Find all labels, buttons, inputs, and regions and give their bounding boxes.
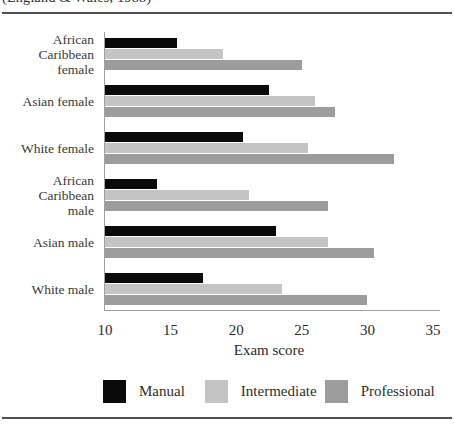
bar-intermediate xyxy=(105,237,328,247)
figure-caption-clipped: (England & Wales, 1988) xyxy=(2,0,454,8)
x-axis-ticks: 101520253035 xyxy=(105,322,433,338)
legend-label-intermediate: Intermediate xyxy=(241,383,317,400)
intermediate-swatch xyxy=(205,380,228,403)
figure-caption-text: (England & Wales, 1988) xyxy=(2,0,454,6)
x-tick-35: 35 xyxy=(426,322,441,339)
chart-group-african-caribbean-female: AfricanCaribbeanfemale xyxy=(0,38,454,70)
group-bars xyxy=(105,38,433,70)
x-tick-25: 25 xyxy=(294,322,309,339)
x-tick-20: 20 xyxy=(229,322,244,339)
bar-manual xyxy=(105,38,177,48)
category-label: White male xyxy=(0,282,105,297)
bar-intermediate xyxy=(105,143,308,153)
chart-group-asian-female: Asian female xyxy=(0,85,454,117)
bar-intermediate xyxy=(105,96,315,106)
legend: Manual Intermediate Professional xyxy=(103,380,454,403)
bar-professional xyxy=(105,295,367,305)
category-label: Asian female xyxy=(0,94,105,109)
x-axis-title: Exam score xyxy=(105,342,433,359)
x-tick-10: 10 xyxy=(98,322,113,339)
manual-swatch xyxy=(103,380,126,403)
bar-manual xyxy=(105,179,157,189)
bar-professional xyxy=(105,60,302,70)
group-bars xyxy=(105,226,433,258)
bar-chart: AfricanCaribbeanfemaleAsian femaleWhite … xyxy=(0,38,454,305)
group-bars xyxy=(105,85,433,117)
bar-professional xyxy=(105,154,394,164)
group-bars xyxy=(105,179,433,211)
category-label: AfricanCaribbeanfemale xyxy=(0,32,105,77)
professional-swatch xyxy=(325,380,348,403)
chart-group-white-male: White male xyxy=(0,273,454,305)
bar-professional xyxy=(105,107,335,117)
bar-manual xyxy=(105,273,203,283)
x-tick-15: 15 xyxy=(163,322,178,339)
category-label: Asian male xyxy=(0,235,105,250)
bar-manual xyxy=(105,132,243,142)
x-tick-30: 30 xyxy=(360,322,375,339)
category-label: White female xyxy=(0,141,105,156)
group-bars xyxy=(105,132,433,164)
legend-item-manual: Manual xyxy=(103,380,185,403)
bar-intermediate xyxy=(105,49,223,59)
legend-label-manual: Manual xyxy=(139,383,185,400)
legend-item-professional: Professional xyxy=(325,380,435,403)
top-rule xyxy=(2,12,452,14)
bar-manual xyxy=(105,226,276,236)
bar-professional xyxy=(105,248,374,258)
chart-group-asian-male: Asian male xyxy=(0,226,454,258)
legend-item-intermediate: Intermediate xyxy=(205,380,317,403)
bar-intermediate xyxy=(105,284,282,294)
bottom-rule xyxy=(2,417,452,419)
bar-intermediate xyxy=(105,190,249,200)
bar-manual xyxy=(105,85,269,95)
bar-professional xyxy=(105,201,328,211)
chart-group-african-caribbean-male: AfricanCaribbeanmale xyxy=(0,179,454,211)
figure-page: (England & Wales, 1988) AfricanCaribbean… xyxy=(0,0,454,431)
group-bars xyxy=(105,273,433,305)
category-label: AfricanCaribbeanmale xyxy=(0,173,105,218)
legend-label-professional: Professional xyxy=(361,383,435,400)
y-axis-line xyxy=(104,32,105,310)
chart-group-white-female: White female xyxy=(0,132,454,164)
x-axis-line xyxy=(104,310,440,311)
